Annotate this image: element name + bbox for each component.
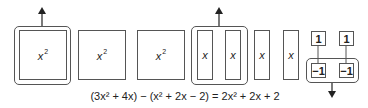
negative-unit-tile: −1 xyxy=(311,63,326,78)
x-squared-tile: x2 xyxy=(137,30,185,80)
arrow-up-icon xyxy=(38,7,46,14)
x-squared-tile: x2 xyxy=(78,30,126,80)
equation: (3x² + 4x) − (x² + 2x − 2) = 2x² + 2x + … xyxy=(60,90,310,102)
arrow-down-icon xyxy=(328,91,336,98)
positive-unit-tile: 1 xyxy=(339,31,354,46)
x-tile: x xyxy=(254,30,270,80)
x-squared-tile: x2 xyxy=(19,30,67,80)
arrow-up-icon xyxy=(215,7,223,14)
positive-unit-tile: 1 xyxy=(311,31,326,46)
x-tile: x xyxy=(197,30,213,80)
x-tile: x xyxy=(283,30,299,80)
x-tile: x xyxy=(225,30,241,80)
negative-unit-tile: −1 xyxy=(339,63,354,78)
